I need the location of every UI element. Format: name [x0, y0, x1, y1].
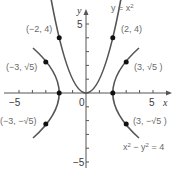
point-m3-root5 [43, 60, 48, 65]
chart-canvas: −5 0 5 5 −5 x y (−2, 4) (2, 4) (−3, √5) … [0, 0, 177, 170]
label-3-root5: (3, √5 ) [134, 62, 162, 72]
point-m3-mroot5 [43, 121, 48, 126]
label-3-mroot5: (3, −√5 ) [133, 116, 167, 126]
x-tick-label-5: 5 [149, 97, 155, 108]
label-m3-mroot5: (−3, −√5) [0, 116, 36, 126]
x-tick-label-0: 0 [79, 97, 85, 108]
y-tick-label-5: 5 [77, 19, 83, 30]
label-2-4: (2, 4) [121, 24, 142, 34]
point-3-mroot5 [124, 121, 129, 126]
vertex-left [57, 91, 62, 96]
vertex-right [110, 91, 115, 96]
point-3-root5 [124, 60, 129, 65]
x-tick-label-m5: −5 [9, 97, 21, 108]
y-axis-label: y [76, 5, 82, 16]
y-axis-arrow-icon [84, 9, 89, 15]
y-tick-label-m5: −5 [73, 157, 85, 168]
point-2-4 [110, 35, 115, 40]
x-axis-label: x [162, 97, 168, 108]
x-axis-arrow-icon [166, 91, 172, 96]
point-m2-4 [57, 35, 62, 40]
label-m2-4: (−2, 4) [26, 24, 52, 34]
hyperbola-equation: x2 − y2 = 4 [123, 142, 164, 152]
label-m3-root5: (−3, √5) [6, 62, 37, 72]
parabola-equation: y = x2 [111, 3, 134, 13]
